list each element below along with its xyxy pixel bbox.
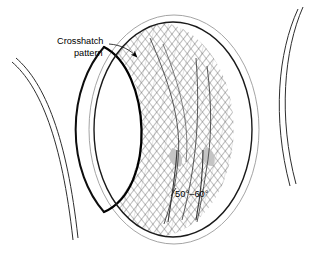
angle-annotation-label: 50°–60° [175,188,209,199]
technical-illustration: Crosshatch pattern 50°–60° [0,0,330,254]
pipe-wall-right [279,7,303,186]
crosshatch-label-line1: Crosshatch [57,36,103,46]
crosshatch-label-line2: pattern [74,48,103,58]
pipe-wall-left [12,58,78,240]
figure-container: Crosshatch pattern 50°–60° [0,0,330,254]
